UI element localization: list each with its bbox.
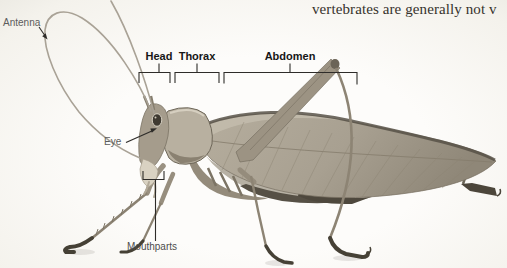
textbook-page: vertebrates are generally not v — [0, 0, 507, 268]
head-bracket — [139, 64, 170, 84]
thorax-bracket — [175, 64, 219, 84]
eye-arrowhead-icon — [150, 128, 157, 133]
head-label: Head — [146, 50, 173, 62]
abdomen-bracket — [224, 64, 357, 85]
eye-arrow — [126, 128, 157, 142]
mouthparts-bracket — [143, 171, 164, 241]
antenna-arrowhead-icon — [42, 33, 47, 39]
mouthparts-label: Mouthparts — [127, 241, 177, 252]
annotation-lines — [0, 0, 507, 268]
abdomen-label: Abdomen — [265, 50, 316, 62]
eye-label: Eye — [104, 136, 121, 147]
thorax-label: Thorax — [179, 50, 216, 62]
antenna-arrow — [39, 27, 48, 40]
antenna-label: Antenna — [3, 17, 40, 28]
